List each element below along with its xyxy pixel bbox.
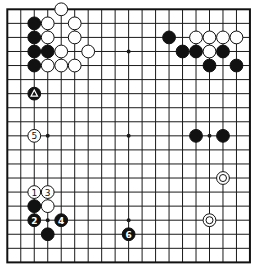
black-stone-icon	[28, 31, 41, 44]
black-stone	[217, 129, 230, 142]
white-stone-icon	[203, 31, 216, 44]
white-stone-icon	[82, 45, 95, 58]
white-stone	[68, 31, 81, 44]
white-stone-icon	[203, 214, 216, 227]
black-stone-icon	[28, 17, 41, 30]
black-stone	[230, 59, 243, 72]
white-stone	[217, 172, 230, 185]
white-stone	[41, 17, 54, 30]
white-stone	[203, 214, 216, 227]
white-stone	[82, 45, 95, 58]
white-stone	[203, 45, 216, 58]
white-stone	[41, 59, 54, 72]
black-stone-icon	[28, 45, 41, 58]
star-point	[46, 218, 50, 222]
white-stone: 3	[41, 186, 54, 199]
black-stone	[41, 45, 54, 58]
move-number: 3	[45, 188, 51, 198]
white-stone-icon	[41, 31, 54, 44]
white-stone-icon	[203, 45, 216, 58]
white-stone-icon	[55, 3, 68, 16]
black-stone-icon	[203, 59, 216, 72]
star-point	[127, 134, 131, 138]
white-stone-icon	[55, 45, 68, 58]
white-stone	[41, 200, 54, 213]
black-stone-icon	[41, 45, 54, 58]
white-stone	[68, 59, 81, 72]
black-stone-icon	[41, 228, 54, 241]
white-stone	[41, 31, 54, 44]
star-point	[127, 49, 131, 53]
white-stone-icon	[190, 31, 203, 44]
move-number: 2	[31, 216, 37, 226]
go-board: 513246	[0, 0, 255, 273]
black-stone-icon	[28, 200, 41, 213]
star-point	[208, 134, 212, 138]
black-stone-icon	[190, 45, 203, 58]
white-stone-icon	[68, 17, 81, 30]
white-stone-icon	[230, 31, 243, 44]
black-stone: 4	[55, 214, 68, 227]
black-stone	[203, 59, 216, 72]
white-stone	[55, 59, 68, 72]
black-stone	[163, 31, 176, 44]
black-stone-icon	[230, 59, 243, 72]
black-stone	[28, 200, 41, 213]
white-stone-icon	[41, 200, 54, 213]
white-stone: 1	[28, 186, 41, 199]
white-stone-icon	[217, 31, 230, 44]
white-stone-icon	[55, 59, 68, 72]
black-stone	[28, 87, 41, 100]
black-stone	[28, 17, 41, 30]
white-stone	[190, 31, 203, 44]
black-stone	[190, 129, 203, 142]
white-stone	[55, 3, 68, 16]
black-stone: 6	[122, 228, 135, 241]
move-number: 5	[31, 131, 37, 141]
star-point	[127, 218, 131, 222]
star-point	[46, 134, 50, 138]
move-number: 1	[31, 188, 37, 198]
black-stone	[176, 45, 189, 58]
white-stone-icon	[217, 172, 230, 185]
black-stone-icon	[28, 59, 41, 72]
white-stone	[230, 31, 243, 44]
white-stone	[68, 17, 81, 30]
black-stone: 2	[28, 214, 41, 227]
black-stone-icon	[217, 45, 230, 58]
white-stone: 5	[28, 129, 41, 142]
black-stone	[217, 45, 230, 58]
black-stone-icon	[176, 45, 189, 58]
white-stone	[203, 31, 216, 44]
black-stone	[41, 228, 54, 241]
black-stone-icon	[190, 129, 203, 142]
white-stone-icon	[68, 59, 81, 72]
black-stone-icon	[163, 31, 176, 44]
white-stone-icon	[41, 17, 54, 30]
black-stone	[28, 59, 41, 72]
white-stone-icon	[68, 31, 81, 44]
black-stone	[28, 31, 41, 44]
black-stone	[190, 45, 203, 58]
white-stone-icon	[41, 59, 54, 72]
white-stone	[55, 45, 68, 58]
black-stone-icon	[217, 129, 230, 142]
move-number: 6	[125, 230, 131, 240]
white-stone	[217, 31, 230, 44]
move-number: 4	[58, 216, 64, 226]
black-stone	[28, 45, 41, 58]
